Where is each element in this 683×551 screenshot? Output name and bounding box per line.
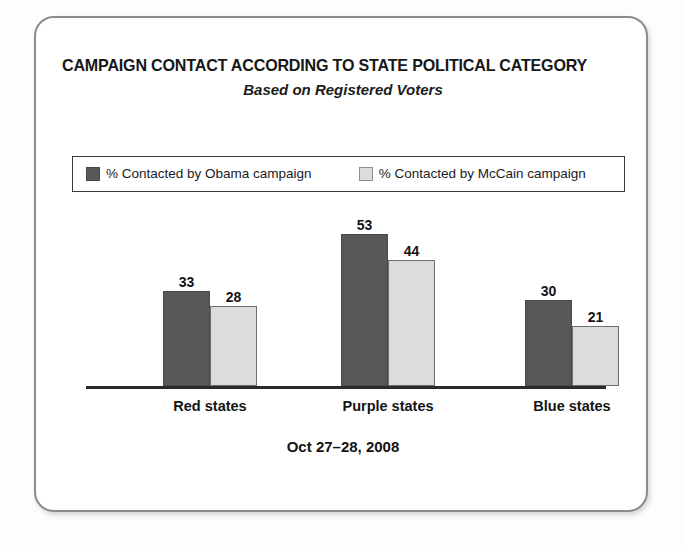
bar-mccain-red-states[interactable]: 28 [210, 306, 257, 386]
category-label-purple-states: Purple states [342, 398, 433, 414]
bar-mccain-blue-states[interactable]: 21 [572, 326, 619, 386]
bar-value-obama-purple-states: 53 [357, 218, 373, 232]
page-title: CAMPAIGN CONTACT ACCORDING TO STATE POLI… [62, 56, 610, 75]
legend-item-mccain[interactable]: % Contacted by McCain campaign [359, 167, 586, 181]
bar-obama-purple-states[interactable]: 53 [341, 234, 388, 386]
bar-mccain-purple-states[interactable]: 44 [388, 260, 435, 386]
dark-swatch-icon [86, 167, 100, 181]
x-axis-line [86, 386, 606, 389]
light-swatch-icon [359, 167, 373, 181]
bar-chart-plot: 33 28 Red states 53 44 Purple states 30 [62, 214, 624, 389]
page-background: CAMPAIGN CONTACT ACCORDING TO STATE POLI… [0, 0, 683, 551]
category-label-red-states: Red states [173, 398, 246, 414]
bar-value-mccain-blue-states: 21 [588, 310, 604, 324]
bar-value-obama-red-states: 33 [179, 275, 195, 289]
bar-value-mccain-red-states: 28 [226, 290, 242, 304]
chart-legend: % Contacted by Obama campaign % Contacte… [72, 156, 625, 192]
bar-value-mccain-purple-states: 44 [404, 244, 420, 258]
legend-item-obama[interactable]: % Contacted by Obama campaign [86, 167, 312, 181]
chart-card: CAMPAIGN CONTACT ACCORDING TO STATE POLI… [34, 16, 648, 512]
category-label-blue-states: Blue states [533, 398, 610, 414]
footer-date: Oct 27–28, 2008 [62, 438, 624, 455]
legend-label-obama: % Contacted by Obama campaign [106, 167, 312, 181]
chart-subtitle: Based on Registered Voters [62, 81, 624, 98]
legend-label-mccain: % Contacted by McCain campaign [379, 167, 586, 181]
bar-obama-blue-states[interactable]: 30 [525, 300, 572, 386]
bar-value-obama-blue-states: 30 [541, 284, 557, 298]
bar-obama-red-states[interactable]: 33 [163, 291, 210, 386]
